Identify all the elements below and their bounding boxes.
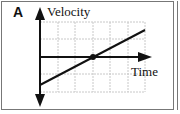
intercept-marker bbox=[90, 54, 96, 60]
x-axis-label: Time bbox=[131, 64, 158, 80]
velocity-axis-up-arrow-icon bbox=[35, 7, 45, 20]
velocity-axis-down-arrow-icon bbox=[35, 94, 45, 107]
y-axis-label: Velocity bbox=[47, 4, 90, 20]
